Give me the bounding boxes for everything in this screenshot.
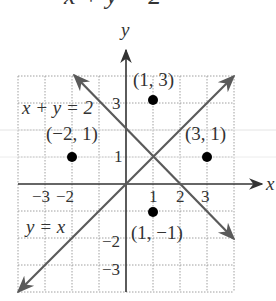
- point-1-neg1: [148, 207, 158, 217]
- y-tick-3: 3: [112, 94, 121, 113]
- coordinate-graph: x + y = 2 x y −3 −2 1 2 3 3 1 −2 −3 x + …: [0, 0, 276, 301]
- y-tick-neg2: −2: [102, 232, 120, 251]
- x-tick-neg3: −3: [32, 187, 50, 206]
- y-axis-label: y: [119, 19, 130, 40]
- x-tick-3: 3: [201, 187, 210, 206]
- point-label-3-1: (3, 1): [185, 123, 226, 145]
- title-partial: x + y = 2: [63, 0, 161, 10]
- point-1-3: [148, 95, 158, 105]
- label-y-equals-x: y = x: [24, 216, 66, 237]
- label-x-plus-y-equals-2: x + y = 2: [21, 97, 94, 118]
- y-tick-1: 1: [114, 147, 123, 166]
- point-label-neg2-1: (−2, 1): [46, 123, 98, 145]
- y-tick-neg3: −3: [102, 260, 120, 279]
- x-tick-neg2: −2: [56, 187, 74, 206]
- point-3-1: [202, 152, 212, 162]
- x-tick-2: 2: [176, 187, 185, 206]
- point-neg2-1: [67, 152, 77, 162]
- point-label-1-neg1: (1, −1): [131, 222, 183, 244]
- x-tick-1: 1: [149, 187, 158, 206]
- x-axis-label: x: [265, 173, 275, 194]
- point-label-1-3: (1, 3): [133, 69, 174, 91]
